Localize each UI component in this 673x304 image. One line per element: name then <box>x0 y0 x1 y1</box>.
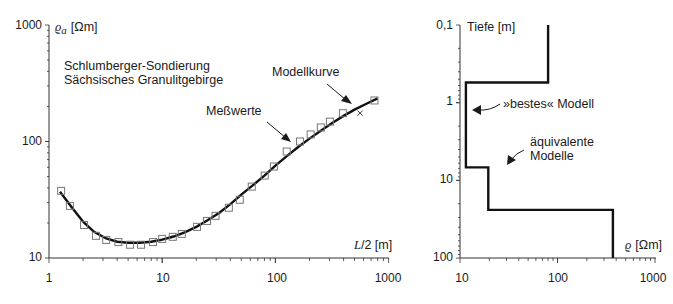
annotation-bestes-modell: »bestes« Modell <box>503 97 594 111</box>
depth-tick-1: 1 <box>446 94 453 108</box>
x-tick-1000: 1000 <box>375 271 402 285</box>
right-x-ticks <box>460 258 655 263</box>
depth-tick-10: 10 <box>440 172 454 186</box>
arrow-messwerte <box>267 122 291 142</box>
right-chart: 0,1 1 10 100 10 100 1000 Tiefe [m] ϱ[Ωm]… <box>433 18 667 285</box>
annotation-modellkurve: Modellkurve <box>272 65 339 79</box>
rho-tick-1000: 1000 <box>640 271 667 285</box>
left-title-line1: Schlumberger-Sondierung <box>64 59 210 73</box>
outlier-x-marker <box>358 111 363 116</box>
arrow-bestes-modell <box>472 104 500 115</box>
depth-tick-100: 100 <box>433 250 453 264</box>
x-tick-100: 100 <box>267 271 287 285</box>
arrow-aequivalente <box>507 150 524 165</box>
figure: 1000 100 10 1 10 100 1000 ϱa[Ωm] Schlumb… <box>0 0 673 304</box>
rho-tick-10: 10 <box>455 271 469 285</box>
annotation-messwerte: Meßwerte <box>206 104 262 118</box>
x-tick-10: 10 <box>156 271 170 285</box>
model-curve <box>60 98 378 243</box>
right-y-ticks <box>456 25 460 258</box>
left-x-ticks <box>49 258 389 263</box>
annotation-aequivalente-line2: Modelle <box>530 149 574 163</box>
right-y-label: Tiefe [m] <box>467 20 515 34</box>
left-chart: 1000 100 10 1 10 100 1000 ϱa[Ωm] Schlumb… <box>15 18 401 285</box>
depth-tick-0-1: 0,1 <box>436 18 453 32</box>
x-tick-1: 1 <box>46 271 53 285</box>
right-x-label: ϱ[Ωm] <box>625 238 662 252</box>
left-x-label: L/2 [m] <box>353 238 392 252</box>
left-title-line2: Sächsisches Granulitgebirge <box>64 73 223 87</box>
annotation-aequivalente-line1: äquivalente <box>530 135 594 149</box>
arrow-modellkurve <box>327 84 352 104</box>
y-tick-10: 10 <box>29 250 43 264</box>
left-y-ticks <box>45 25 49 258</box>
left-y-label: ϱa[Ωm] <box>55 20 98 36</box>
measured-markers <box>58 97 378 248</box>
y-tick-1000: 1000 <box>15 18 42 32</box>
rho-tick-100: 100 <box>548 271 568 285</box>
y-tick-100: 100 <box>22 134 42 148</box>
